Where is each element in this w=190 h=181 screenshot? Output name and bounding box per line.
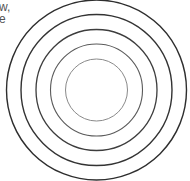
ring-1 (7, 0, 187, 180)
concentric-circles-diagram (0, 0, 190, 181)
ring-3 (36, 30, 157, 151)
ring-5 (66, 59, 128, 121)
ring-2 (21, 15, 172, 166)
ring-4 (51, 44, 143, 136)
